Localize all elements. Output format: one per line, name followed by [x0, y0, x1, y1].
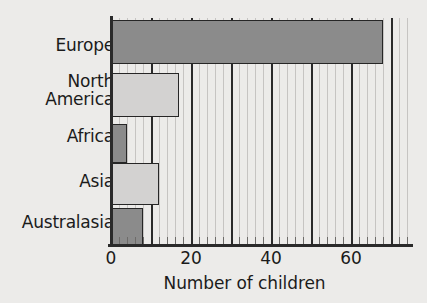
category-label-africa: Africa: [67, 127, 114, 145]
plot-area: [111, 18, 411, 244]
xtick-68: [383, 237, 384, 244]
xtick-40: [271, 234, 273, 244]
xtick-18: [183, 237, 184, 244]
xtick-66: [375, 237, 376, 244]
gridline-74: [407, 18, 408, 244]
xtick-28: [223, 237, 224, 244]
xtick-60: [351, 234, 353, 244]
xtick-48: [303, 237, 304, 244]
x-axis-title: Number of children: [0, 273, 427, 293]
xtick-6: [135, 237, 136, 244]
xtick-52: [319, 237, 320, 244]
bar-europe[interactable]: [111, 20, 383, 64]
xtick-54: [327, 237, 328, 244]
xtick-34: [247, 237, 248, 244]
bar-north-america[interactable]: [111, 73, 179, 117]
category-label-europe: Europe: [55, 36, 114, 54]
x-axis-title-text: Number of children: [164, 273, 326, 293]
xtick-8: [143, 237, 144, 244]
xtick-38: [263, 237, 264, 244]
category-label-north-america: North America: [45, 72, 114, 108]
bar-chart: Europe North America Africa Asia Austral…: [0, 0, 427, 303]
xtick-42: [279, 237, 280, 244]
xtick-70: [391, 234, 393, 244]
xtick-20: [191, 234, 193, 244]
xtick-74: [407, 237, 408, 244]
xtick-10: [151, 234, 153, 244]
xtick-22: [199, 237, 200, 244]
bar-asia[interactable]: [111, 163, 159, 205]
gridline-70: [391, 18, 393, 244]
xtick-58: [343, 237, 344, 244]
gridline-72: [399, 18, 400, 244]
category-label-asia: Asia: [79, 172, 114, 190]
xtick-64: [367, 237, 368, 244]
category-label-australasia: Australasia: [22, 213, 114, 231]
xtick-label-20: 20: [180, 248, 202, 268]
xtick-36: [255, 237, 256, 244]
xtick-44: [287, 237, 288, 244]
xtick-26: [215, 237, 216, 244]
xtick-72: [399, 237, 400, 244]
bar-africa[interactable]: [111, 124, 127, 163]
xtick-16: [175, 237, 176, 244]
xtick-56: [335, 237, 336, 244]
xtick-24: [207, 237, 208, 244]
xtick-12: [159, 237, 160, 244]
xtick-4: [127, 237, 128, 244]
xtick-label-40: 40: [260, 248, 282, 268]
xtick-30: [231, 234, 233, 244]
xtick-32: [239, 237, 240, 244]
y-axis-line: [110, 16, 113, 246]
xtick-14: [167, 237, 168, 244]
xtick-label-60: 60: [340, 248, 362, 268]
xtick-0: [111, 234, 113, 244]
x-axis-line: [108, 244, 413, 247]
xtick-label-0: 0: [106, 248, 117, 268]
xtick-46: [295, 237, 296, 244]
gridline-68: [383, 18, 384, 244]
xtick-50: [311, 234, 313, 244]
xtick-2: [119, 237, 120, 244]
xtick-62: [359, 237, 360, 244]
